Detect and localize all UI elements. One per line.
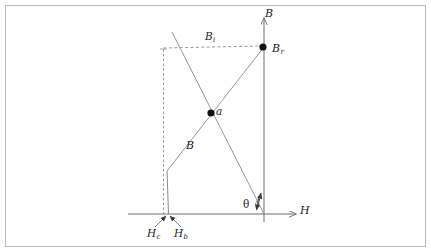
coercivity-label-subscript: c	[156, 233, 160, 241]
point-br	[259, 43, 266, 50]
intrinsic-coercivity-label: Hb	[174, 228, 188, 241]
intrinsic-coercivity-label-base: H	[174, 227, 183, 239]
demagnetization-curve	[172, 32, 264, 214]
intrinsic-label-subscript: i	[213, 36, 216, 44]
bh-curve-diagram	[0, 0, 431, 252]
figure-container: B H Br Bi a B θ Hc Hb	[0, 0, 431, 252]
remanence-label: Br	[272, 43, 284, 55]
point-a	[207, 109, 214, 116]
intrinsic-label: Bi	[205, 31, 215, 44]
intrinsic-coercivity-label-subscript: b	[183, 233, 188, 241]
coercivity-label-base: H	[147, 227, 156, 239]
remanence-label-subscript: r	[280, 47, 284, 56]
remanence-label-base: B	[272, 42, 280, 55]
recoil-segment	[167, 171, 169, 214]
coercivity-label: Hc	[147, 228, 160, 241]
dashed-horizontal-line	[164, 46, 263, 48]
b-axis-label: B	[265, 8, 273, 19]
intrinsic-label-base: B	[205, 30, 213, 42]
hc-leader-arrow	[155, 216, 166, 227]
load-line-label: B	[186, 140, 194, 151]
h-axis-label: H	[300, 205, 310, 216]
operating-point-label: a	[216, 106, 222, 117]
hb-leader-arrow	[170, 216, 181, 227]
theta-label: θ	[243, 199, 249, 210]
